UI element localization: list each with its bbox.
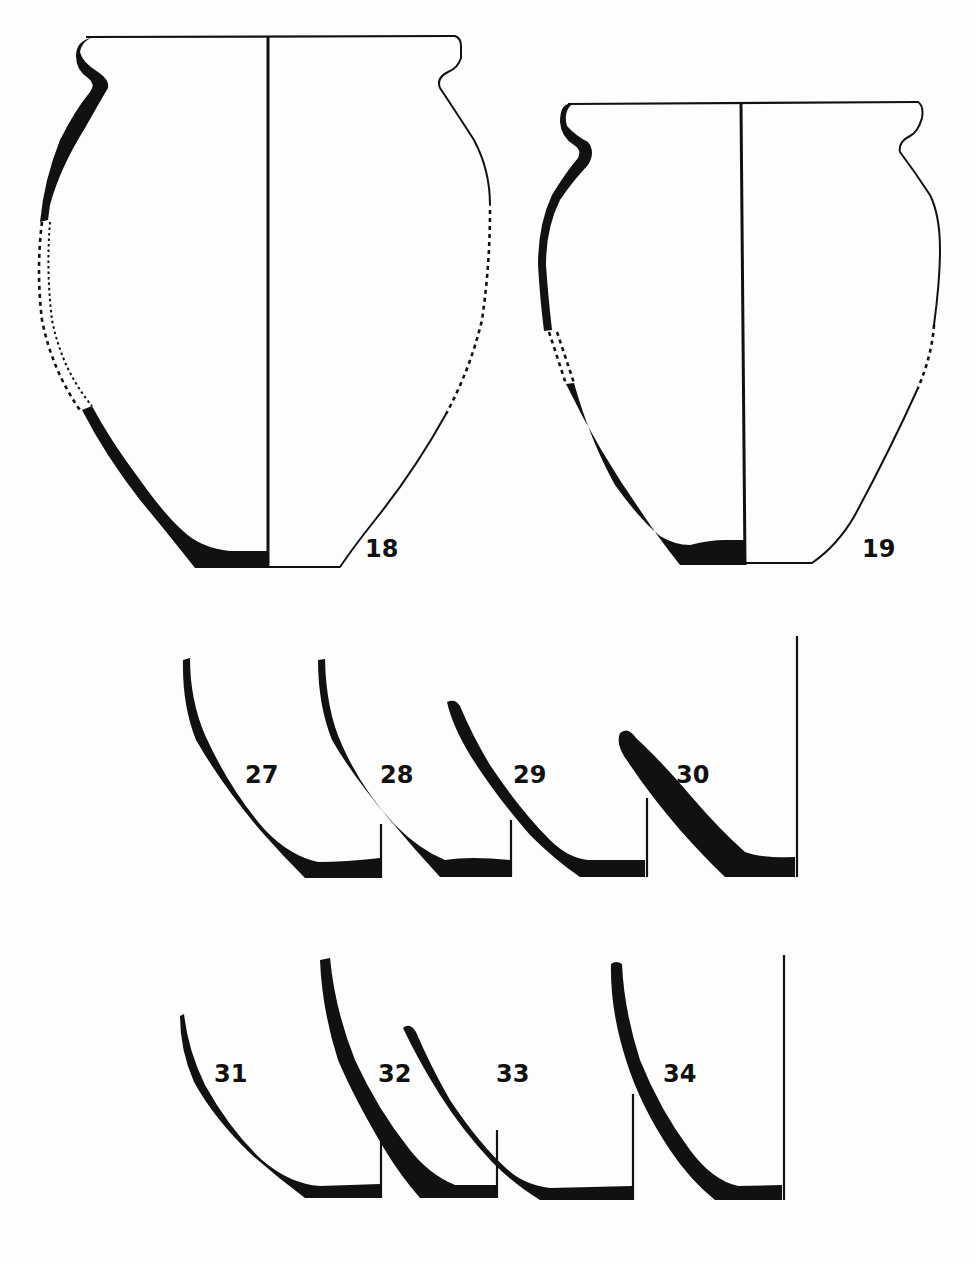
fragment-34: 34 (611, 955, 784, 1200)
fragment-33-label: 33 (496, 1060, 529, 1088)
vessel-19-rim-section (538, 104, 592, 331)
vessel-19-reconstructed-wall (549, 332, 566, 384)
fragment-31: 31 (180, 1014, 381, 1198)
fragment-28-label: 28 (380, 761, 413, 789)
fragment-31-label: 31 (214, 1060, 247, 1088)
vessel-18-label: 18 (365, 535, 398, 563)
vessel-19-rim-line (568, 102, 918, 104)
vessel-18: 18 (39, 36, 490, 568)
fragment-30: 30 (619, 636, 797, 877)
fragment-32: 32 (320, 958, 497, 1198)
fragment-33-section (403, 1026, 632, 1200)
vessel-18-reconstructed-wall-inner (48, 222, 92, 406)
fragment-33: 33 (403, 1026, 633, 1200)
pottery-profiles-figure: 18 19 27 28 29 30 31 (0, 0, 976, 1264)
fragment-27-label: 27 (245, 761, 278, 789)
fragment-32-label: 32 (378, 1060, 411, 1088)
vessel-19-label: 19 (862, 535, 895, 563)
vessel-18-base-section (82, 406, 268, 568)
vessel-18-rim-line (86, 36, 455, 37)
vessel-19-exterior-outline (900, 102, 940, 325)
vessel-19-reconstructed-wall-2 (557, 332, 574, 383)
fragment-29: 29 (447, 701, 647, 877)
fragment-29-label: 29 (513, 761, 546, 789)
fragment-34-label: 34 (663, 1060, 696, 1088)
vessel-18-exterior-outline (439, 36, 490, 205)
vessel-18-reconstructed-exterior (446, 210, 490, 414)
vessel-19: 19 (538, 102, 940, 565)
fragment-31-section (180, 1014, 380, 1198)
vessel-19-base-section (566, 383, 745, 565)
fragment-30-label: 30 (676, 761, 709, 789)
fragment-34-section (611, 962, 782, 1200)
vessel-19-reconstructed-exterior (918, 325, 934, 388)
vessel-18-lower-exterior (268, 414, 446, 567)
vessel-19-center-axis (741, 104, 745, 565)
vessel-18-reconstructed-wall-outer (39, 222, 80, 410)
fragment-30-section (619, 730, 795, 877)
vessel-18-rim-section (40, 36, 108, 222)
